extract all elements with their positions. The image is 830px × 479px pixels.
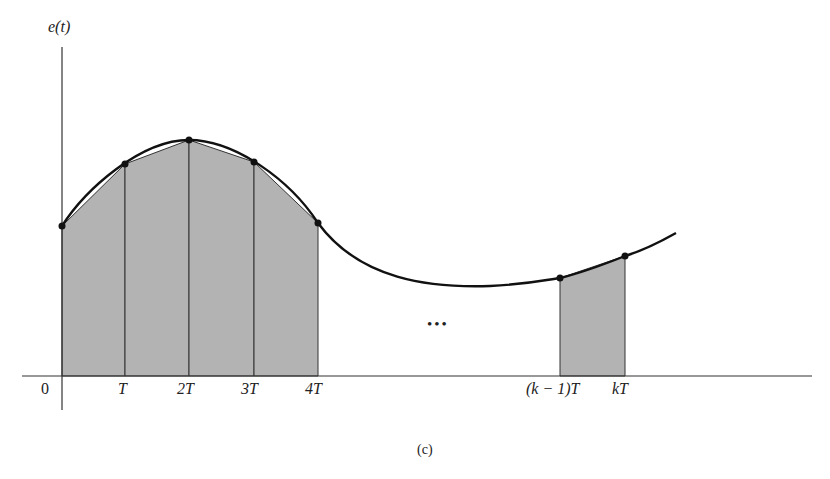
tick-label-0: 0 [41, 380, 49, 398]
point-4T [315, 220, 322, 227]
y-axis-label: e(t) [48, 18, 70, 36]
point-T [122, 161, 129, 168]
point-0 [59, 223, 66, 230]
tick-label-T: T [118, 380, 127, 398]
trapezoid-1 [125, 140, 189, 376]
caption: (c) [417, 442, 433, 458]
tick-label-kT: kT [612, 380, 628, 398]
ellipsis: ••• [427, 316, 449, 333]
point-kT [622, 253, 629, 260]
trapezoid-2 [189, 140, 254, 376]
trapezoid-diagram [0, 0, 830, 479]
point-k-1T [557, 275, 564, 282]
tick-label-4T: 4T [305, 380, 322, 398]
tick-label-k-1T: (k − 1)T [526, 380, 579, 398]
point-2T [186, 137, 193, 144]
point-3T [251, 159, 258, 166]
trapezoids [62, 140, 625, 376]
trapezoid-k [560, 256, 625, 376]
tick-label-3T: 3T [241, 380, 258, 398]
trapezoid-3 [254, 162, 318, 376]
tick-label-2T: 2T [177, 380, 194, 398]
trapezoid-0 [62, 164, 125, 376]
